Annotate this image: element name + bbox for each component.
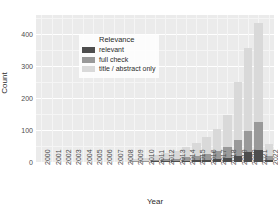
x-tick-label: 2019 [241,149,248,165]
x-tick-label: 2014 [189,149,196,165]
legend-item-label: relevant [99,46,124,54]
x-tick-label: 2018 [230,149,237,165]
x-tick-label: 2011 [158,150,165,165]
x-tick-label: 2016 [210,149,217,165]
x-tick-label: 2003 [75,149,82,165]
x-axis-tick-labels: 2000200120022003200420052006200720082009… [36,163,274,197]
x-tick-label: 2006 [106,149,113,165]
x-tick-label: 2008 [127,149,134,165]
x-tick-label: 2020 [251,149,258,165]
bar-column [244,48,252,162]
x-tick-label: 2013 [179,149,186,165]
legend-item: full check [82,56,155,64]
bar-segment [213,129,221,151]
x-tick-label: 2010 [148,149,155,165]
x-tick-label: 2001 [55,149,62,165]
y-axis-title: Count [0,0,11,166]
x-tick-label: 2021 [261,149,268,165]
legend-color-swatch [82,47,95,53]
legend-item: title / abstract only [82,65,155,73]
x-tick-label: 2022 [272,149,278,165]
legend-color-swatch [82,66,95,72]
legend-title: Relevance [99,36,155,44]
legend-entries: relevantfull checktitle / abstract only [82,46,155,73]
x-tick-label: 2004 [86,149,93,165]
legend: Relevance relevantfull checktitle / abst… [79,34,159,78]
legend-item-label: title / abstract only [99,65,155,73]
x-tick-label: 2002 [65,149,72,165]
bar-segment [223,115,231,147]
x-tick-label: 2009 [137,149,144,165]
x-tick-label: 2015 [199,149,206,165]
bar-segment [234,82,242,140]
x-tick-label: 2007 [117,149,124,165]
x-tick-label: 2012 [168,149,175,165]
bar-segment [254,122,262,149]
bar-column [254,23,262,162]
x-tick-label: 2000 [44,149,51,165]
bar-chart-figure: 0100200300400 Count Relevance relevantfu… [0,0,278,210]
x-tick-label: 2005 [96,149,103,165]
bar-segment [254,23,262,122]
x-tick-label: 2017 [220,149,227,165]
legend-item-label: full check [99,56,128,64]
plot-panel: Relevance relevantfull checktitle / abst… [36,15,274,162]
legend-item: relevant [82,46,155,54]
legend-color-swatch [82,57,95,63]
x-axis-title: Year [36,197,274,207]
bar-segment [244,48,252,132]
